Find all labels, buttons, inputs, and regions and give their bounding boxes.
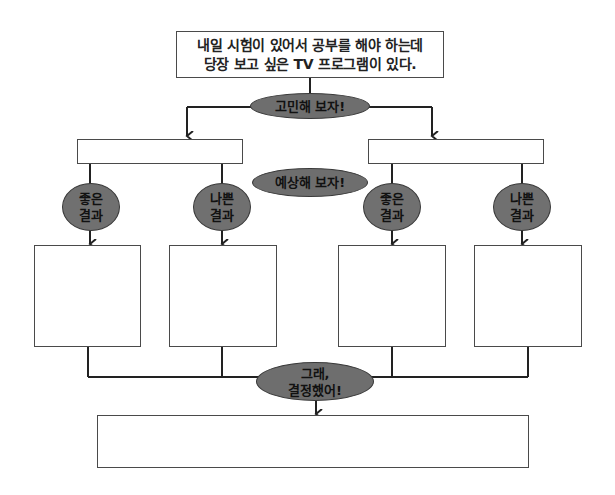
step-think-label: 고민해 보자!	[250, 93, 370, 119]
outcome-label-line2: 결과	[510, 207, 534, 224]
step-predict-label: 예상해 보자!	[252, 168, 368, 197]
step-predict-text: 예상해 보자!	[275, 174, 345, 191]
step-decide-line1: 그래,	[301, 365, 330, 382]
outcome-label-line1: 좋은	[380, 190, 404, 207]
outcome-bad-left: 나쁜 결과	[193, 183, 251, 231]
situation-line-2: 당장 보고 싶은 TV 프로그램이 있다.	[204, 55, 417, 74]
step-decide-line2: 결정했어!	[288, 382, 342, 399]
outcome-label-line2: 결과	[210, 207, 234, 224]
outcome-good-right: 좋은 결과	[363, 183, 421, 231]
outcome-label-line1: 나쁜	[210, 190, 234, 207]
outcome-label-line2: 결과	[380, 207, 404, 224]
outcome-label-line1: 좋은	[79, 190, 103, 207]
outcome-good-left: 좋은 결과	[62, 183, 120, 231]
outcome-label-line1: 나쁜	[510, 190, 534, 207]
choice-box-right[interactable]	[368, 139, 544, 164]
situation-box: 내일 시험이 있어서 공부를 해야 하는데 당장 보고 싶은 TV 프로그램이 …	[176, 31, 444, 78]
choice-box-left[interactable]	[77, 139, 243, 164]
step-think-text: 고민해 보자!	[275, 98, 345, 115]
outcome-box-bad-right[interactable]	[474, 245, 582, 347]
outcome-box-good-right[interactable]	[338, 245, 446, 347]
outcome-bad-right: 나쁜 결과	[493, 183, 551, 231]
outcome-box-bad-left[interactable]	[169, 245, 277, 347]
situation-line-1: 내일 시험이 있어서 공부를 해야 하는데	[197, 36, 423, 55]
step-decide-label: 그래, 결정했어!	[256, 362, 374, 401]
outcome-box-good-left[interactable]	[34, 245, 141, 347]
decision-box[interactable]	[97, 415, 529, 468]
outcome-label-line2: 결과	[79, 207, 103, 224]
